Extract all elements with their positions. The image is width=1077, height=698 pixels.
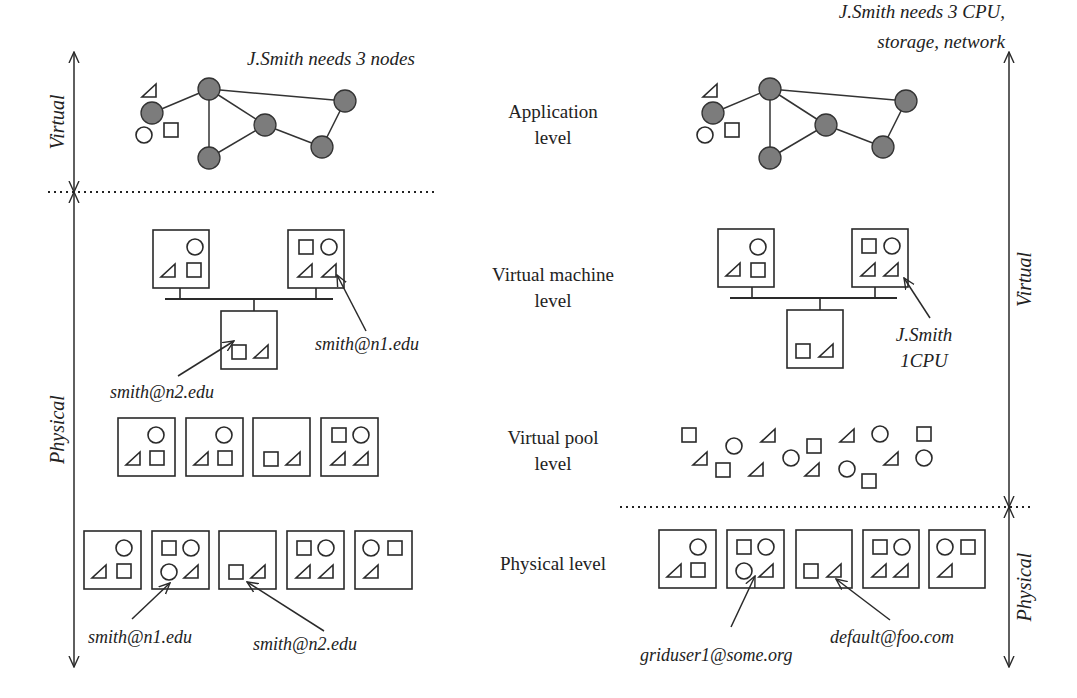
application-node-graph (136, 78, 356, 169)
physical-machine (796, 530, 852, 588)
machine-box (727, 530, 784, 588)
resource-square-icon (862, 474, 876, 488)
machine-box (321, 418, 378, 476)
physical-machine (152, 531, 209, 589)
resource-square-icon (725, 123, 739, 137)
resource-circle-icon (839, 461, 855, 477)
graph-node (334, 90, 356, 112)
resource-triangle-icon (142, 84, 156, 97)
physical-machine (659, 530, 716, 588)
virtual-resource-pool (682, 426, 932, 488)
resource-triangle-icon (693, 452, 707, 465)
account-label: J.Smith (896, 324, 952, 345)
physical-machine (355, 531, 412, 589)
machine-box (153, 230, 209, 288)
axis-label-physical: Physical (1013, 552, 1036, 622)
axis-label-virtual: Virtual (46, 94, 68, 150)
request-label: J.Smith needs 3 CPU, (839, 1, 1005, 22)
level-label-virtual-machine: Virtual machine (492, 264, 614, 285)
physical-machine (727, 530, 784, 588)
machine-box (84, 531, 141, 589)
machine-box (863, 530, 919, 588)
level-label-virtual-pool: level (535, 453, 572, 474)
resource-square-icon (716, 463, 730, 477)
level-labels: ApplicationlevelVirtual machinelevelVirt… (492, 101, 614, 574)
account-label: griduser1@some.org (640, 645, 792, 665)
physical-machine (219, 531, 276, 589)
account-label: smith@n1.edu (315, 334, 419, 354)
grid-virtualization-diagram: J.Smith needs 3 nodesVirtualPhysicalsmit… (0, 0, 1077, 698)
account-label: default@foo.com (830, 627, 954, 647)
physical-machine (287, 531, 344, 589)
level-label-application: Application (508, 101, 598, 122)
machine-box (852, 229, 908, 287)
axis-label-virtual: Virtual (1013, 251, 1035, 307)
request-label: J.Smith needs 3 nodes (247, 48, 415, 69)
virtual-machine (288, 230, 344, 288)
machine-box (152, 531, 209, 589)
physical-machine (863, 530, 919, 588)
machine-box (186, 418, 243, 476)
graph-node (141, 102, 163, 124)
resource-square-icon (682, 428, 696, 442)
graph-node (759, 147, 781, 169)
account-label: smith@n2.edu (110, 382, 214, 402)
virtual-machine (153, 230, 209, 288)
virtual-machine (787, 310, 843, 368)
machine-box (796, 530, 852, 588)
level-label-virtual-pool: Virtual pool (507, 427, 598, 448)
graph-node (311, 136, 333, 158)
right-panel: J.Smith needs 3 CPU,storage, networkVirt… (620, 1, 1036, 667)
graph-node (702, 102, 724, 124)
resource-triangle-icon (761, 429, 775, 442)
resource-square-icon (164, 123, 178, 137)
pool-machine (253, 418, 310, 476)
resource-triangle-icon (703, 84, 717, 97)
graph-node (198, 147, 220, 169)
resource-circle-icon (726, 438, 742, 454)
graph-node (254, 114, 276, 136)
graph-node (895, 90, 917, 112)
resource-square-icon (807, 439, 821, 453)
left-panel: J.Smith needs 3 nodesVirtualPhysicalsmit… (46, 48, 437, 667)
graph-node (198, 78, 220, 100)
graph-node (872, 136, 894, 158)
pointer-arrow (337, 275, 366, 331)
request-label: storage, network (877, 31, 1005, 52)
pool-machine (186, 418, 243, 476)
resource-triangle-icon (840, 429, 854, 442)
resource-circle-icon (697, 127, 713, 143)
level-label-physical: Physical level (500, 553, 606, 574)
virtual-machine (718, 229, 774, 287)
machine-box (253, 418, 310, 476)
machine-box (929, 530, 985, 588)
resource-triangle-icon (749, 463, 763, 476)
machine-box (787, 310, 843, 368)
level-label-application: level (535, 127, 572, 148)
axis-label-physical: Physical (46, 395, 69, 465)
graph-node (759, 78, 781, 100)
machine-box (718, 229, 774, 287)
machine-box (221, 311, 277, 369)
pointer-arrow (904, 278, 930, 318)
virtual-machine (221, 311, 277, 369)
resource-triangle-icon (805, 463, 819, 476)
resource-circle-icon (872, 426, 888, 442)
graph-edge (770, 89, 906, 101)
resource-triangle-icon (884, 452, 898, 465)
resource-square-icon (917, 427, 931, 441)
physical-machine (929, 530, 985, 588)
machine-box (355, 531, 412, 589)
machine-box (219, 531, 276, 589)
machine-box (287, 531, 344, 589)
resource-circle-icon (783, 450, 799, 466)
resource-circle-icon (136, 127, 152, 143)
physical-machine (84, 531, 141, 589)
virtual-machine (852, 229, 908, 287)
resource-circle-icon (916, 450, 932, 466)
level-label-virtual-machine: level (535, 290, 572, 311)
graph-edge (209, 89, 345, 101)
account-label: smith@n2.edu (253, 634, 357, 654)
machine-box (659, 530, 716, 588)
machine-box (118, 418, 175, 476)
